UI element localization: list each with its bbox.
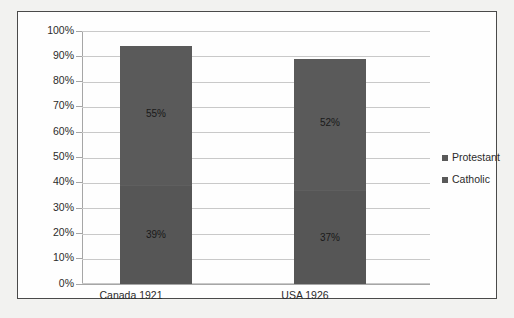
legend-swatch-icon-catholic <box>442 177 448 183</box>
bar-stack-canada-1921[interactable]: 55% 39% <box>120 46 192 284</box>
scanned-page: 100% 90% 80% 70% 60% 50% 40% 30% 20% 10%… <box>0 0 514 318</box>
y-axis-labels: 100% 90% 80% 70% 60% 50% 40% 30% 20% 10%… <box>18 12 74 300</box>
y-tick-label-30: 30% <box>22 202 74 213</box>
legend-item-protestant[interactable]: Protestant <box>442 152 512 163</box>
y-tick-label-40: 40% <box>22 176 74 187</box>
y-tick-label-60: 60% <box>22 126 74 137</box>
y-tick-label-100: 100% <box>22 25 74 36</box>
category-label-usa-1926: USA 1926 <box>230 289 380 301</box>
y-tick-label-10: 10% <box>22 252 74 263</box>
y-tick-label-80: 80% <box>22 75 74 86</box>
bar-segment-usa-protestant[interactable]: 52% <box>294 59 366 191</box>
y-tick-label-70: 70% <box>22 100 74 111</box>
bar-label-canada-catholic: 39% <box>120 229 192 240</box>
chart-frame: 100% 90% 80% 70% 60% 50% 40% 30% 20% 10%… <box>17 11 497 299</box>
legend-label-protestant: Protestant <box>452 152 500 163</box>
gridline-100 <box>82 31 430 32</box>
bar-label-canada-protestant: 55% <box>120 108 192 119</box>
category-axis-line <box>82 284 430 285</box>
category-label-canada-1921: Canada 1921 <box>56 289 206 301</box>
legend-label-catholic: Catholic <box>452 174 490 185</box>
bar-label-usa-catholic: 37% <box>294 232 366 243</box>
bar-segment-canada-protestant[interactable]: 55% <box>120 46 192 185</box>
y-tick-label-90: 90% <box>22 50 74 61</box>
y-tick-label-50: 50% <box>22 151 74 162</box>
bar-segment-usa-catholic[interactable]: 37% <box>294 190 366 284</box>
y-tick-label-0: 0% <box>22 278 74 289</box>
legend-item-catholic[interactable]: Catholic <box>442 174 512 185</box>
bar-segment-canada-catholic[interactable]: 39% <box>120 185 192 284</box>
legend-swatch-icon-protestant <box>442 155 448 161</box>
y-tick-label-20: 20% <box>22 227 74 238</box>
plot-area: 55% 39% 52% 37% <box>82 31 430 284</box>
chart-legend: Protestant Catholic <box>442 152 512 196</box>
bar-label-usa-protestant: 52% <box>294 117 366 128</box>
bar-stack-usa-1926[interactable]: 52% 37% <box>294 59 366 284</box>
